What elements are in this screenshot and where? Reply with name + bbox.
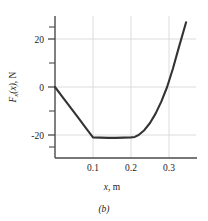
figure-container: 20 0 -20 0.1 0.2 0.3 x, m Fx(x), N (b) (0, 0, 208, 221)
x-tick-label-0-3: 0.3 (163, 163, 175, 173)
force-vs-position-chart: 20 0 -20 0.1 0.2 0.3 x, m Fx(x), N (b) (0, 0, 208, 221)
x-tick-label-0-2: 0.2 (125, 163, 137, 173)
y-tick-label-0: 0 (39, 83, 44, 93)
x-axis-title-units: , m (108, 182, 121, 192)
y-axis-title-units: , N (8, 71, 18, 83)
x-tick-label-0-1: 0.1 (87, 163, 99, 173)
y-tick-label-20: 20 (35, 35, 45, 45)
figure-caption: (b) (98, 204, 109, 215)
y-axis-title-arg: (x) (8, 83, 19, 94)
y-axis-title: Fx(x), N (8, 71, 19, 103)
data-series-line (55, 22, 186, 138)
y-tick-label-minus20: -20 (31, 131, 44, 141)
x-axis-title: x, m (103, 182, 121, 192)
